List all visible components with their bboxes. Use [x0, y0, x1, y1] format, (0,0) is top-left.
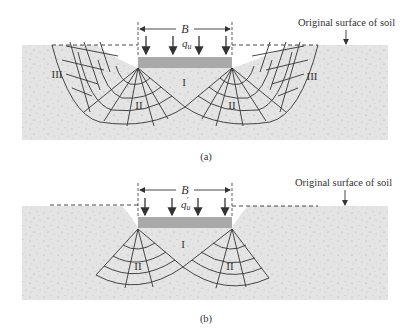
zone-label-I: I: [182, 76, 186, 88]
load-label: qu′: [181, 196, 191, 212]
load-label: qu: [182, 37, 192, 51]
width-label: B: [181, 183, 189, 197]
width-label: B: [181, 22, 189, 36]
zone-label-III-left: III: [52, 68, 63, 80]
bearing-capacity-diagram: B qu Original surface of soil: [0, 0, 412, 335]
panel-a: B qu Original surface of soil: [22, 17, 395, 163]
footing: [138, 217, 232, 228]
zone-label-III-right: III: [307, 70, 318, 82]
footing: [138, 57, 232, 68]
zone-label-II-right: II: [228, 99, 236, 111]
original-surface-label: Original surface of soil: [295, 177, 392, 188]
zone-label-II-left: II: [134, 260, 142, 272]
caption-b: (b): [200, 313, 213, 325]
zone-label-II-left: II: [135, 99, 143, 111]
panel-b: B qu′ Original surface of soil: [22, 177, 392, 325]
zone-label-II-right: II: [226, 260, 234, 272]
caption-a: (a): [200, 151, 212, 163]
zone-label-I: I: [181, 238, 185, 250]
original-surface-label: Original surface of soil: [298, 17, 395, 28]
